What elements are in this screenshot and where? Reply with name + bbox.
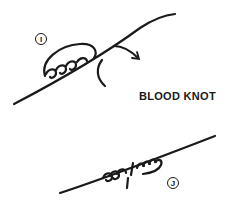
step-i-label: I: [40, 35, 42, 44]
knot-illustration: [0, 0, 233, 211]
step-j-label: J: [171, 179, 175, 188]
diagram-title: BLOOD KNOT: [139, 90, 216, 102]
step-i-tag-end: [98, 60, 105, 86]
step-j-marker: J: [167, 177, 179, 189]
step-i-loop: [44, 44, 95, 76]
step-i-arrow: [114, 46, 138, 58]
step-i-marker: I: [35, 33, 47, 45]
blood-knot-diagram: I BLOOD KNOT J: [0, 0, 233, 211]
